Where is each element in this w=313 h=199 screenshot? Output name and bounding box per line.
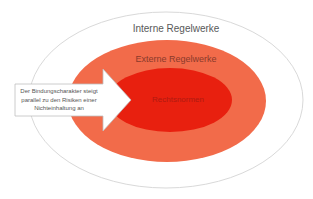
arrow-text: Der Bindungscharakter steigt parallel zu…	[15, 87, 103, 113]
label-rechtsnormen: Rechtsnormen	[152, 95, 204, 104]
arrow-text-line-3: Nichteinhaltung an	[15, 104, 103, 113]
arrow-text-line-1: Der Bindungscharakter steigt	[15, 87, 103, 96]
arrow-text-line-2: parallel zu den Risiken einer	[15, 96, 103, 105]
label-interne-regelwerke: Interne Regelwerke	[133, 23, 220, 34]
label-externe-regelwerke: Externe Regelwerke	[135, 54, 216, 64]
